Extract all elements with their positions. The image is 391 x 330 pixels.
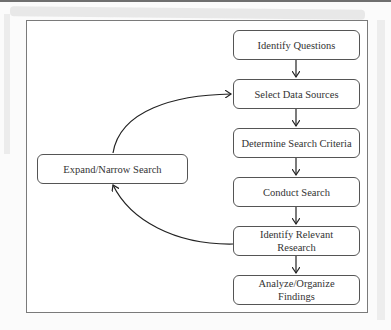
connector-arrows xyxy=(0,0,391,330)
curved-arrow-return-icon xyxy=(113,185,233,244)
curved-arrow-up-icon xyxy=(113,94,231,153)
